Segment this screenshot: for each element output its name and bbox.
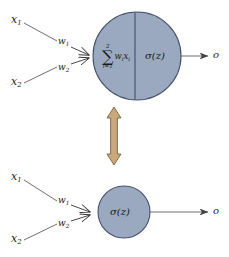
double-arrow-shape bbox=[107, 107, 121, 165]
weight-label-w1-compact: w1 bbox=[58, 196, 69, 205]
summation-lower-limit: i=1 bbox=[102, 64, 113, 70]
summation-operator: 2 ∑ i=1 bbox=[102, 44, 113, 69]
summation-body: wixi bbox=[114, 52, 129, 61]
neuron-diagram-figure: x1 x2 w1 w2 2 ∑ i=1 wixi σ(z) o x1 x2 w1… bbox=[0, 0, 229, 257]
activation-label-expanded: σ(z) bbox=[145, 51, 165, 61]
edge-w2-into-neuron bbox=[71, 215, 90, 221]
input-label-x2: x2 bbox=[11, 76, 22, 87]
input-label-x1: x1 bbox=[11, 14, 22, 25]
weight-label-w2: w2 bbox=[58, 63, 69, 72]
edge-w2-into-neuron bbox=[71, 58, 89, 64]
edge-x2-to-w2 bbox=[24, 224, 57, 240]
equivalence-arrow-group bbox=[107, 107, 121, 165]
input-label-x1-compact: x1 bbox=[11, 171, 22, 182]
diagram-canvas bbox=[0, 0, 229, 257]
net-input-expression: 2 ∑ i=1 wixi bbox=[98, 44, 134, 69]
edge-w1-into-neuron bbox=[71, 47, 89, 55]
weight-label-w1: w1 bbox=[58, 37, 69, 46]
weight-label-w2-compact: w2 bbox=[58, 219, 69, 228]
input-label-x2-compact: x2 bbox=[11, 233, 22, 244]
edge-x1-to-w1 bbox=[24, 23, 57, 41]
output-label-compact: o bbox=[213, 206, 219, 216]
edge-x2-to-w2 bbox=[24, 67, 57, 83]
edge-w1-into-neuron bbox=[71, 205, 90, 212]
output-label-expanded: o bbox=[213, 50, 219, 60]
activation-label-compact: σ(z) bbox=[110, 207, 130, 217]
edge-x1-to-w1 bbox=[24, 180, 57, 201]
